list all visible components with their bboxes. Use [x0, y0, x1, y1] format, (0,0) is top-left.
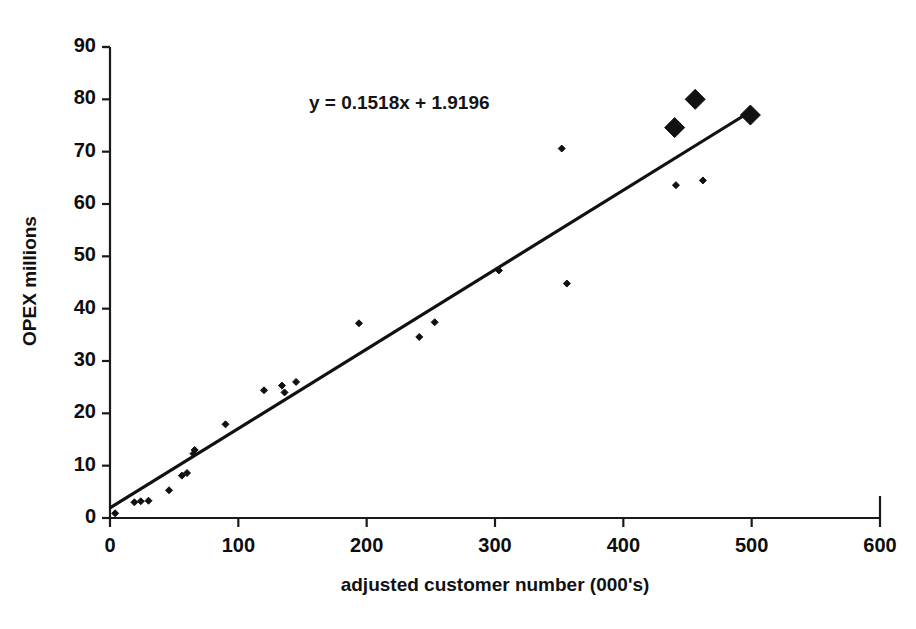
data-point-marker	[431, 319, 438, 326]
plot-area	[0, 0, 916, 629]
data-point-marker	[131, 499, 138, 506]
data-point-marker	[416, 333, 423, 340]
data-point-marker	[740, 105, 760, 125]
trendline-segment	[110, 111, 752, 508]
data-point-marker	[112, 510, 119, 517]
axis-lines	[103, 47, 880, 518]
data-point-marker	[145, 497, 152, 504]
scatter-chart: OPEX millions adjusted customer number (…	[0, 0, 916, 629]
data-point-marker	[672, 182, 679, 189]
data-point-marker	[558, 145, 565, 152]
data-point-marker	[355, 320, 362, 327]
data-point-marker	[222, 421, 229, 428]
tick-marks	[102, 47, 880, 527]
data-point-marker	[685, 89, 705, 109]
data-point-marker	[665, 118, 685, 138]
data-point-marker	[699, 177, 706, 184]
data-point-marker	[261, 387, 268, 394]
data-point-marker	[137, 498, 144, 505]
data-point-marker	[166, 487, 173, 494]
data-point-marker	[563, 280, 570, 287]
data-point-marker	[293, 378, 300, 385]
data-points	[112, 89, 761, 516]
trendline	[110, 111, 752, 508]
data-point-marker	[281, 389, 288, 396]
data-point-marker	[278, 382, 285, 389]
